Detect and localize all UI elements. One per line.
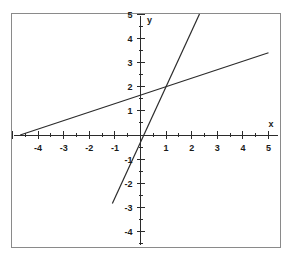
x-tick-label: -1: [111, 143, 119, 153]
y-tick-label: 1: [127, 106, 132, 116]
y-tick-label: 4: [127, 34, 132, 44]
x-tick-label: 2: [189, 143, 194, 153]
shallow-line: [20, 53, 268, 135]
y-tick-label: -1: [124, 155, 132, 165]
tick-labels-group: -4-3-2-11234554321-1-2-3-4yx: [34, 10, 273, 238]
x-tick-label: -2: [85, 143, 93, 153]
x-tick-label: -3: [60, 143, 68, 153]
y-tick-label: -4: [124, 227, 132, 237]
x-tick-label: -4: [34, 143, 42, 153]
data-lines-group: [20, 14, 268, 203]
y-axis-label: y: [147, 15, 152, 25]
x-tick-label: 4: [240, 143, 245, 153]
graph-figure: -4-3-2-11234554321-1-2-3-4yx: [0, 0, 292, 261]
x-tick-label: 5: [266, 143, 271, 153]
steep-line: [112, 14, 199, 203]
x-tick-label: 3: [215, 143, 220, 153]
x-tick-label: 1: [164, 143, 169, 153]
coordinate-plane: -4-3-2-11234554321-1-2-3-4yx: [0, 0, 292, 261]
y-tick-label: 2: [127, 82, 132, 92]
y-tick-label: 3: [127, 58, 132, 68]
y-tick-label: 5: [127, 10, 132, 20]
y-tick-label: -3: [124, 203, 132, 213]
y-tick-label: -2: [124, 179, 132, 189]
x-axis-label: x: [268, 119, 273, 129]
